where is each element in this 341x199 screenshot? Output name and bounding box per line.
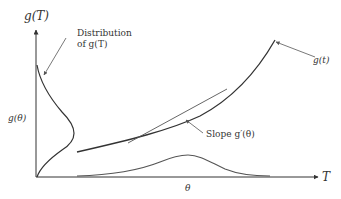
y-axis-label: g(T) xyxy=(24,9,49,23)
distribution-gT-curve xyxy=(37,65,74,177)
x-axis-label: T xyxy=(322,170,331,184)
curve-label: g(t) xyxy=(313,55,330,65)
curve-pointer-arrow xyxy=(276,42,315,57)
y-tick-label: g(θ) xyxy=(8,113,27,123)
distribution-T-curve xyxy=(77,155,270,176)
slope-label: Slope g′(θ) xyxy=(206,129,255,139)
distribution-label-line1: Distribution xyxy=(77,28,132,38)
slope-pointer-arrow xyxy=(186,120,203,133)
delta-method-diagram: g(T) T Distribution of g(T) g(t) Slope g… xyxy=(0,0,341,199)
distribution-pointer-arrow xyxy=(44,38,66,75)
x-tick-label: θ xyxy=(185,183,191,193)
distribution-label-line2: of g(T) xyxy=(77,39,107,49)
